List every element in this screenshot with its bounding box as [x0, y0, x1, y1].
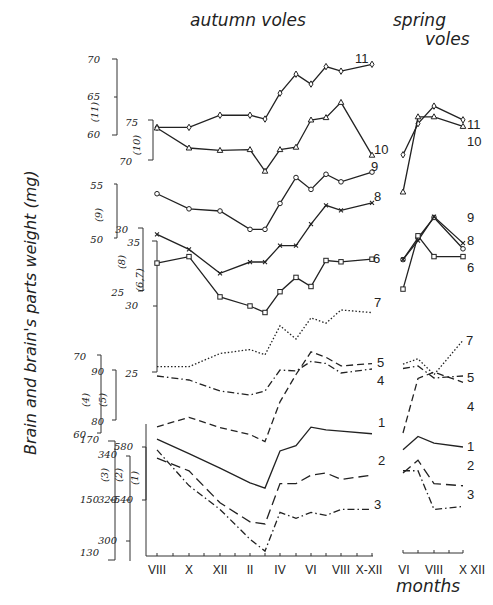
series-label: 9	[467, 210, 474, 225]
y-axis-tick-label: (5)	[97, 393, 108, 407]
series-label: 2	[467, 458, 474, 473]
square-marker	[309, 284, 313, 288]
y-axis-tick-label: 70	[119, 156, 132, 167]
triangle-marker	[400, 189, 406, 194]
series-6-autumn	[155, 254, 374, 314]
spring-voles-title-line2: voles	[425, 29, 470, 49]
y-axis-tick-label: 25	[110, 287, 124, 298]
y-axis-tick-label: (9)	[93, 208, 104, 222]
x-tick-label: IV	[274, 563, 285, 577]
x-tick-label: XII	[213, 563, 228, 577]
triangle-marker	[247, 147, 253, 152]
x-axis-autumn	[146, 553, 373, 556]
series-label: 11	[355, 51, 369, 66]
triangle-marker	[277, 147, 283, 152]
square-marker	[461, 254, 465, 258]
y-axis-tick-label: 25	[124, 368, 138, 379]
autumn-voles-title: autumn voles	[190, 10, 306, 30]
y-axis-tick-label: (8)	[116, 255, 127, 269]
y-axis-tick-label: (11)	[89, 102, 100, 123]
square-marker	[294, 275, 298, 279]
circle-marker	[218, 209, 223, 214]
circle-marker	[461, 247, 466, 252]
series-3-autumn	[157, 450, 372, 551]
series-label: 1	[378, 415, 385, 430]
y-axis-tick-label: (2)	[113, 468, 124, 482]
square-marker	[155, 261, 159, 265]
series-label: 8	[374, 189, 381, 204]
x-tick-label: X XII	[459, 563, 485, 577]
series-label: 4	[377, 373, 384, 388]
series-11-spring	[401, 103, 465, 158]
spring-voles-title-line1: spring	[393, 10, 446, 30]
diamond-marker	[248, 112, 252, 118]
series-label: 7	[466, 333, 473, 348]
square-marker	[263, 310, 267, 314]
x-axis-label: months	[396, 576, 460, 596]
y-axis-tick-label: (6,7)	[134, 268, 145, 292]
circle-marker	[263, 227, 268, 232]
series-label: 3	[467, 487, 474, 502]
cross-marker	[461, 241, 465, 245]
square-marker	[218, 295, 222, 299]
square-marker	[324, 258, 328, 262]
triangle-marker	[431, 114, 437, 119]
series-6-spring	[401, 234, 465, 292]
diamond-marker	[461, 117, 465, 123]
y-axis-tick-label: 170	[80, 434, 100, 445]
triangle-marker	[217, 147, 223, 152]
y-axis-tick-label: 60	[87, 129, 100, 140]
y-axis-tick-label: 80	[91, 416, 104, 427]
circle-marker	[187, 207, 192, 212]
circle-marker	[339, 180, 344, 185]
x-tick-labels: VIIIXXIIIIIVVIVIIIX-XIIVIVIIIX XII	[148, 563, 485, 577]
y-axis-tick-label: (3)	[99, 468, 110, 482]
series-label: 3	[374, 497, 381, 512]
series-label: 10	[467, 134, 481, 149]
y-axis-tick-label: 150	[80, 494, 100, 505]
square-marker	[432, 254, 436, 258]
diamond-marker	[187, 124, 191, 130]
circle-marker	[324, 172, 329, 177]
y-axis-tick-label: 70	[73, 351, 86, 362]
series-label: 5	[377, 355, 384, 370]
series-3-spring	[403, 471, 463, 510]
y-axis-tick-label: 580	[114, 441, 134, 452]
series-label: 10	[374, 142, 388, 157]
series-2-autumn	[157, 458, 372, 524]
series-label: 7	[374, 295, 381, 310]
x-tick-label: VIII	[332, 563, 350, 577]
y-axis-tick-label: 35	[127, 237, 140, 248]
square-marker	[278, 290, 282, 294]
cross-marker	[309, 222, 313, 226]
y-axis-tick-label: 50	[90, 234, 103, 245]
series-label: 11	[467, 117, 481, 132]
y-tick-labels: 706560(11)7570(10)5550(9)3025(8)353025(6…	[73, 54, 145, 558]
series-1-autumn	[157, 427, 372, 488]
triangle-marker	[415, 114, 421, 119]
y-axis-label: Brain and brain's parts weight (mg)	[21, 170, 40, 455]
circle-marker	[309, 187, 314, 192]
diamond-marker	[370, 61, 374, 67]
circle-marker	[155, 191, 160, 196]
y-axis-tick-label: (10)	[131, 135, 142, 156]
series-label: 6	[467, 260, 474, 275]
triangle-marker	[460, 123, 466, 128]
series-label: 2	[378, 453, 385, 468]
x-axis-spring	[403, 550, 463, 553]
series-label: 8	[467, 233, 474, 248]
line-chart: autumn voles spring voles Brain and brai…	[0, 0, 493, 605]
y-axis-tick-label: 130	[80, 547, 100, 558]
triangle-marker	[308, 117, 314, 122]
square-marker	[187, 254, 191, 258]
series-7-spring	[403, 340, 463, 374]
y-axis-tick-label: 55	[90, 180, 103, 191]
x-tick-label: VIII	[148, 563, 166, 577]
triangle-marker	[338, 99, 344, 104]
square-marker	[339, 260, 343, 264]
series-10-spring	[400, 114, 466, 194]
series-1-spring	[403, 436, 463, 449]
series-label: 4	[467, 399, 474, 414]
circle-marker	[278, 201, 283, 206]
series-label: 1	[467, 439, 474, 454]
